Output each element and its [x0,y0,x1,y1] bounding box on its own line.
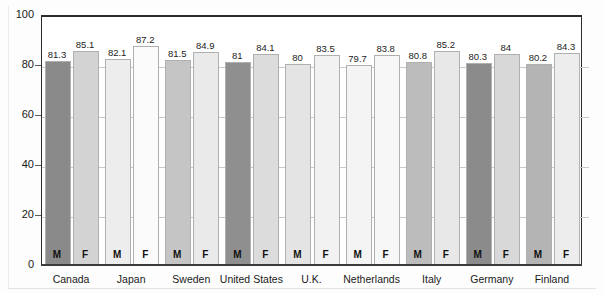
bar-value-label: 85.2 [433,40,459,50]
bar-value-label: 83.8 [373,44,399,54]
bar-mark-female: F [313,250,339,260]
bar [554,53,580,264]
bar [406,62,432,264]
axis-baseline [41,264,582,266]
bar [466,63,492,264]
bar [314,55,340,264]
bar-value-label: 81 [224,51,250,61]
bar-mark-male: M [525,250,551,260]
y-tick-label: 60 [22,109,34,120]
bar-value-label: 82.1 [104,48,130,58]
bar-value-label: 84 [493,43,519,53]
bar-mark-male: M [284,250,310,260]
y-axis: 020406080100 [0,0,41,293]
bar-mark-male: M [405,250,431,260]
life-expectancy-bar-chart: 020406080100 CanadaJapanSwedenUnited Sta… [0,0,604,293]
bar-mark-female: F [252,250,278,260]
bar [285,64,311,264]
bar-mark-female: F [132,250,158,260]
bar [434,51,460,264]
y-tick-label: 100 [16,9,34,20]
bar-mark-female: F [373,250,399,260]
bar-mark-female: F [72,250,98,260]
bar-value-label: 84.1 [252,43,278,53]
bar-value-label: 80.8 [405,51,431,61]
y-tick-label: 80 [22,59,34,70]
y-tick-label: 20 [22,209,34,220]
bar-value-label: 81.3 [44,50,70,60]
bar-value-label: 84.9 [192,41,218,51]
bar [73,51,99,264]
bar-value-label: 84.3 [553,42,579,52]
bar-mark-male: M [345,250,371,260]
bar [374,55,400,265]
bar-mark-male: M [164,250,190,260]
page-bottom-rule [8,288,596,289]
bar [346,65,372,264]
bar [526,64,552,265]
category-label: Finland [510,274,594,285]
bar [494,54,520,264]
bar-mark-male: M [224,250,250,260]
bar [193,52,219,264]
bar-mark-female: F [433,250,459,260]
bar-value-label: 80.3 [465,52,491,62]
bar-value-label: 80.2 [525,53,551,63]
bar-value-label: 87.2 [132,35,158,45]
y-tick-label: 40 [22,159,34,170]
bar-mark-male: M [104,250,130,260]
bar-mark-male: M [465,250,491,260]
bar [45,61,71,264]
bar [165,60,191,264]
bar [133,46,159,264]
bar-mark-female: F [493,250,519,260]
bar-value-label: 85.1 [72,40,98,50]
y-tick-label: 0 [28,259,34,270]
bar [105,59,131,264]
bar-mark-male: M [44,250,70,260]
bar [253,54,279,264]
bar-value-label: 79.7 [345,54,371,64]
bar-value-label: 83.5 [313,44,339,54]
bar-mark-female: F [192,250,218,260]
bar [225,62,251,265]
bar-value-label: 80 [284,53,310,63]
bar-value-label: 81.5 [164,49,190,59]
bar-mark-female: F [553,250,579,260]
